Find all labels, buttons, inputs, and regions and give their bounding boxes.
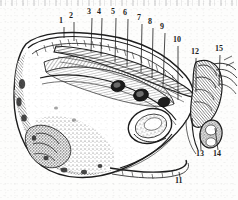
callout-number-14: 14 <box>213 150 221 158</box>
callout-number-15: 15 <box>215 45 223 53</box>
anatomical-plate: 123456789101112131415 <box>0 0 238 200</box>
callout-number-7: 7 <box>137 14 141 22</box>
callout-number-6: 6 <box>123 9 127 17</box>
callout-number-11: 11 <box>175 177 183 185</box>
callout-number-2: 2 <box>69 12 73 20</box>
anatomy-illustration <box>0 0 238 200</box>
callout-number-10: 10 <box>173 36 181 44</box>
callout-number-1: 1 <box>59 17 63 25</box>
callout-number-12: 12 <box>191 48 199 56</box>
callout-number-3: 3 <box>87 8 91 16</box>
callout-number-5: 5 <box>111 8 115 16</box>
callout-number-4: 4 <box>97 8 101 16</box>
callout-number-9: 9 <box>160 23 164 31</box>
callout-number-13: 13 <box>196 150 204 158</box>
sacrum-segment <box>186 60 224 154</box>
callout-number-8: 8 <box>148 18 152 26</box>
